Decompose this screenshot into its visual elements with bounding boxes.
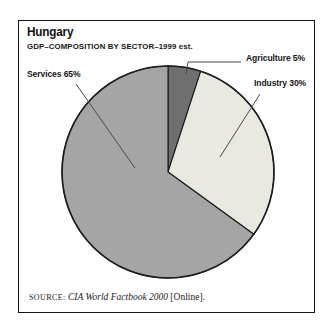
- figure-subtitle: GDP–COMPOSITION BY SECTOR–1999 est.: [27, 42, 193, 51]
- source-prefix: SOURCE:: [29, 293, 66, 302]
- slice-label-services: Services 65%: [27, 69, 81, 79]
- figure-canvas: Hungary GDP–COMPOSITION BY SECTOR–1999 e…: [0, 0, 331, 328]
- slice-label-industry: Industry 30%: [254, 78, 306, 88]
- source-citation: SOURCE: CIA World Factbook 2000 [Online]…: [29, 292, 205, 302]
- slice-label-agriculture: Agriculture 5%: [246, 53, 305, 63]
- figure-title: Hungary: [27, 25, 73, 39]
- pie-slices: [62, 66, 274, 278]
- source-work-title: CIA World Factbook 2000: [68, 292, 168, 302]
- source-suffix: [Online].: [170, 292, 205, 302]
